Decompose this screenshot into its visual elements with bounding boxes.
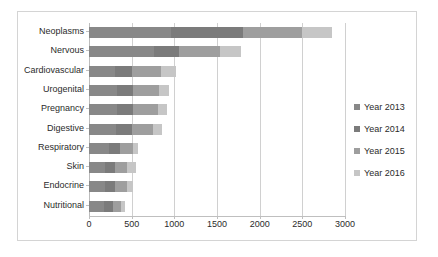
category-label: Skin	[66, 160, 84, 172]
bar-row: Neoplasms	[89, 23, 345, 42]
bar-segment	[154, 46, 179, 57]
bar-segment	[132, 66, 161, 77]
bar-segment	[89, 46, 154, 57]
bar-segment	[121, 201, 125, 212]
bar-segment	[115, 162, 127, 173]
stacked-bar	[89, 85, 169, 96]
legend-swatch-icon	[354, 126, 360, 132]
stacked-bar	[89, 27, 332, 38]
category-label: Respiratory	[38, 141, 84, 153]
stacked-bar	[89, 66, 176, 77]
category-label: Endocrine	[43, 179, 84, 191]
legend-label: Year 2013	[364, 102, 405, 112]
category-label: Neoplasms	[39, 25, 84, 37]
bar-segment	[132, 124, 153, 135]
bar-segment	[220, 46, 241, 57]
bar-row: Digestive	[89, 120, 345, 139]
x-tick-label: 2500	[292, 219, 312, 229]
bar-segment	[116, 124, 131, 135]
bar-segment	[109, 143, 120, 154]
stacked-bar	[89, 104, 167, 115]
bar-row: Endocrine	[89, 177, 345, 196]
x-tick-label: 3000	[335, 219, 355, 229]
x-tick-label: 2000	[250, 219, 270, 229]
bar-segment	[89, 181, 105, 192]
legend-item[interactable]: Year 2013	[354, 98, 416, 115]
legend-swatch-icon	[354, 170, 360, 176]
bar-segment	[89, 162, 105, 173]
x-tick-label: 500	[124, 219, 139, 229]
bar-segment	[89, 124, 116, 135]
bar-segment	[105, 181, 115, 192]
bar-segment	[113, 201, 121, 212]
category-label: Cardiovascular	[24, 64, 84, 76]
legend-item[interactable]: Year 2016	[354, 164, 416, 181]
bar-segment	[120, 143, 133, 154]
bar-row: Pregnancy	[89, 100, 345, 119]
bar-row: Respiratory	[89, 139, 345, 158]
bar-segment	[127, 181, 134, 192]
stacked-bar	[89, 162, 136, 173]
stacked-bar	[89, 143, 138, 154]
x-tick-label: 1000	[164, 219, 184, 229]
stacked-bar	[89, 46, 241, 57]
legend-label: Year 2016	[364, 168, 405, 178]
bar-segment	[89, 27, 171, 38]
bar-segment	[115, 66, 132, 77]
bar-segment	[105, 162, 115, 173]
bar-segment	[89, 66, 115, 77]
bar-segment	[89, 201, 104, 212]
bar-segment	[153, 124, 162, 135]
bar-segment	[302, 27, 332, 38]
plot-area: NeoplasmsNervousCardiovascularUrogenital…	[89, 23, 345, 216]
bar-segment	[89, 85, 117, 96]
bar-segment	[179, 46, 220, 57]
x-tick-label: 1500	[207, 219, 227, 229]
chart-frame: NeoplasmsNervousCardiovascularUrogenital…	[17, 11, 417, 241]
bar-segment	[115, 181, 126, 192]
category-label: Urogenital	[43, 83, 84, 95]
gridline-3000	[345, 23, 346, 216]
bar-segment	[133, 85, 159, 96]
legend-label: Year 2014	[364, 124, 405, 134]
bar-row: Skin	[89, 158, 345, 177]
stacked-bar	[89, 124, 162, 135]
legend-swatch-icon	[354, 104, 360, 110]
bar-segment	[127, 162, 136, 173]
category-label: Pregnancy	[41, 102, 84, 114]
bar-segment	[117, 104, 133, 115]
category-label: Digestive	[47, 122, 84, 134]
category-label: Nervous	[50, 44, 84, 56]
stacked-bar	[89, 181, 133, 192]
bar-row: Urogenital	[89, 81, 345, 100]
bar-segment	[104, 201, 113, 212]
bar-segment	[159, 85, 169, 96]
x-tick-label: 0	[86, 219, 91, 229]
category-label: Nutritional	[43, 199, 84, 211]
chart-legend: Year 2013Year 2014Year 2015Year 2016	[354, 98, 416, 186]
bar-segment	[133, 143, 139, 154]
bar-segment	[161, 66, 176, 77]
legend-label: Year 2015	[364, 146, 405, 156]
legend-item[interactable]: Year 2015	[354, 142, 416, 159]
legend-swatch-icon	[354, 148, 360, 154]
bar-segment	[243, 27, 303, 38]
stacked-bar	[89, 201, 125, 212]
legend-item[interactable]: Year 2014	[354, 120, 416, 137]
bar-segment	[89, 104, 117, 115]
bar-segment	[89, 143, 109, 154]
bar-segment	[158, 104, 167, 115]
bar-segment	[133, 104, 158, 115]
bar-row: Cardiovascular	[89, 62, 345, 81]
bar-segment	[171, 27, 243, 38]
bar-segment	[117, 85, 133, 96]
bar-row: Nervous	[89, 42, 345, 61]
bar-row: Nutritional	[89, 197, 345, 216]
